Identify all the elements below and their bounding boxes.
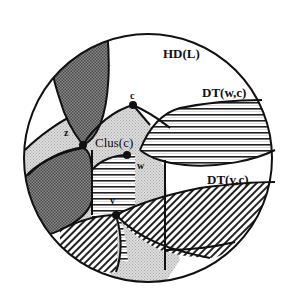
c-node: [129, 101, 137, 109]
z-label: z: [64, 127, 69, 138]
dt-vc-label: DT(v,c): [207, 172, 249, 187]
dt-wc-label: DT(w,c): [202, 85, 246, 100]
voronoi-cluster-diagram: HD(L) DT(w,c) DT(v,c) Clus(c) z c w v: [0, 0, 287, 297]
v-label: v: [110, 195, 115, 206]
w-node: [123, 151, 131, 159]
c-label: c: [130, 90, 135, 101]
w-label: w: [137, 160, 145, 171]
v-node: [112, 211, 120, 219]
clus-label: Clus(c): [95, 135, 133, 150]
hd-label: HD(L): [163, 46, 200, 61]
clus-node: [79, 141, 87, 149]
